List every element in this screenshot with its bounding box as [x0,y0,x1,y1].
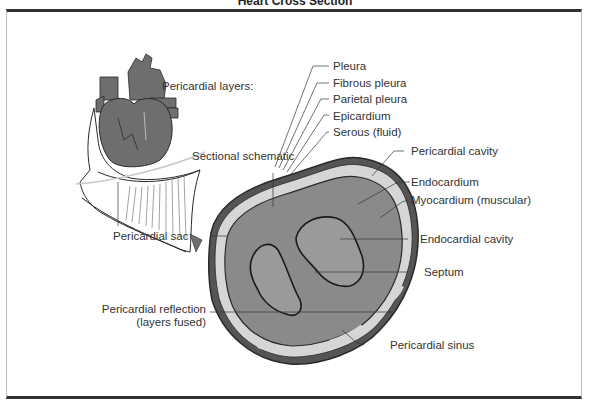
label-pericardial-sac: Pericardial sac [113,230,188,243]
label-myocardium: Myocardium (muscular) [411,194,531,207]
label-endocardial-cavity: Endocardial cavity [420,233,513,246]
label-pericardial-layers: Pericardial layers: [162,80,253,93]
label-pericardial-cavity: Pericardial cavity [411,145,498,158]
label-serous-fluid: Serous (fluid) [333,126,401,139]
label-pericardial-reflection-line2: (layers fused) [100,316,206,329]
label-sectional-schematic: Sectional schematic [192,150,294,163]
label-fibrous-pleura: Fibrous pleura [333,77,407,90]
label-pericardial-reflection-line1: Pericardial reflection [100,303,206,316]
label-pericardial-reflection: Pericardial reflection (layers fused) [100,303,206,329]
label-pleura: Pleura [333,60,366,73]
label-endocardium: Endocardium [411,176,479,189]
label-epicardium: Epicardium [333,110,391,123]
label-septum: Septum [424,266,464,279]
label-parietal-pleura: Parietal pleura [333,93,407,106]
label-pericardial-sinus: Pericardial sinus [390,339,474,352]
